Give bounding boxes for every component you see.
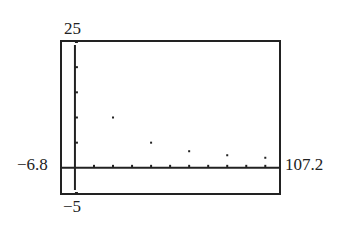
data-point — [226, 154, 228, 156]
data-point — [188, 150, 190, 152]
data-point — [264, 157, 266, 159]
data-point — [112, 117, 114, 119]
data-point — [150, 142, 152, 144]
plot-area — [0, 0, 350, 229]
